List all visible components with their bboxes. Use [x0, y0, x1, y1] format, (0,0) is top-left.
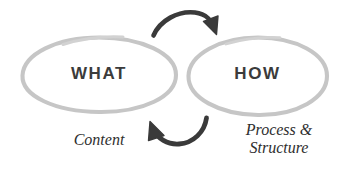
diagram-canvas: WHAT HOW Content Process & Structure	[0, 0, 349, 172]
caption-process-line-1: Process &	[224, 121, 334, 139]
arrow-top-icon	[154, 12, 219, 35]
caption-content: Content	[44, 131, 154, 149]
caption-process-structure: Process & Structure	[224, 121, 334, 157]
node-label-what: WHAT	[22, 64, 176, 84]
node-label-how: HOW	[188, 64, 327, 84]
arrow-bottom-icon	[149, 118, 207, 144]
caption-process-line-2: Structure	[224, 139, 334, 157]
arrow-bottom-shaft	[153, 118, 207, 144]
